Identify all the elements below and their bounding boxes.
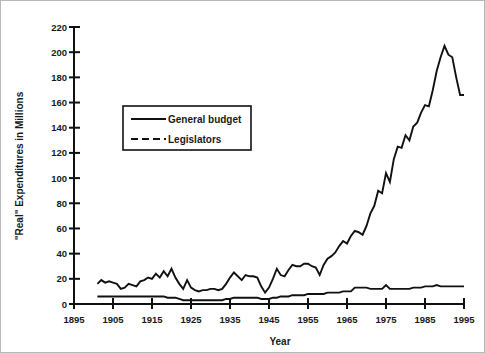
y-tick-label: 160 <box>51 97 67 108</box>
x-tick-label: 1895 <box>63 314 85 325</box>
y-tick-label: 180 <box>51 72 67 83</box>
x-tick-label: 1985 <box>414 314 436 325</box>
y-tick-labels: 020406080100120140160180200220 <box>51 22 67 310</box>
y-axis-label: "Real" Expenditures in Millions <box>14 91 25 240</box>
legend-label-general-budget: General budget <box>168 114 242 125</box>
chart-figure: "Real" Expenditures in Millions Year 020… <box>0 0 485 353</box>
x-tick-label: 1905 <box>102 314 124 325</box>
series-general-budget <box>97 46 464 293</box>
y-tick-label: 20 <box>56 273 67 284</box>
x-tick-label: 1945 <box>258 314 280 325</box>
x-axis-label: Year <box>269 336 290 347</box>
y-tick-label: 220 <box>51 22 67 33</box>
legend: General budget Legislators <box>123 106 251 150</box>
y-tick-label: 200 <box>51 47 67 58</box>
x-tick-label: 1915 <box>141 314 163 325</box>
y-tick-label: 60 <box>56 223 67 234</box>
x-tick-label: 1925 <box>180 314 202 325</box>
y-tick-label: 40 <box>56 248 67 259</box>
y-tick-label: 0 <box>62 299 67 310</box>
line-chart: "Real" Expenditures in Millions Year 020… <box>1 1 485 353</box>
x-tick-label: 1935 <box>219 314 241 325</box>
x-tick-label: 1975 <box>375 314 397 325</box>
x-tick-label: 1955 <box>297 314 319 325</box>
x-tick-labels: 1895190519151925193519451955196519751985… <box>63 314 475 325</box>
x-tick-label: 1995 <box>453 314 475 325</box>
y-tick-label: 140 <box>51 122 67 133</box>
legend-label-legislators: Legislators <box>168 134 222 145</box>
x-tick-label: 1965 <box>336 314 358 325</box>
y-tick-label: 120 <box>51 147 67 158</box>
y-tick-label: 80 <box>56 198 67 209</box>
series-legislators <box>97 285 464 300</box>
y-tick-label: 100 <box>51 173 67 184</box>
